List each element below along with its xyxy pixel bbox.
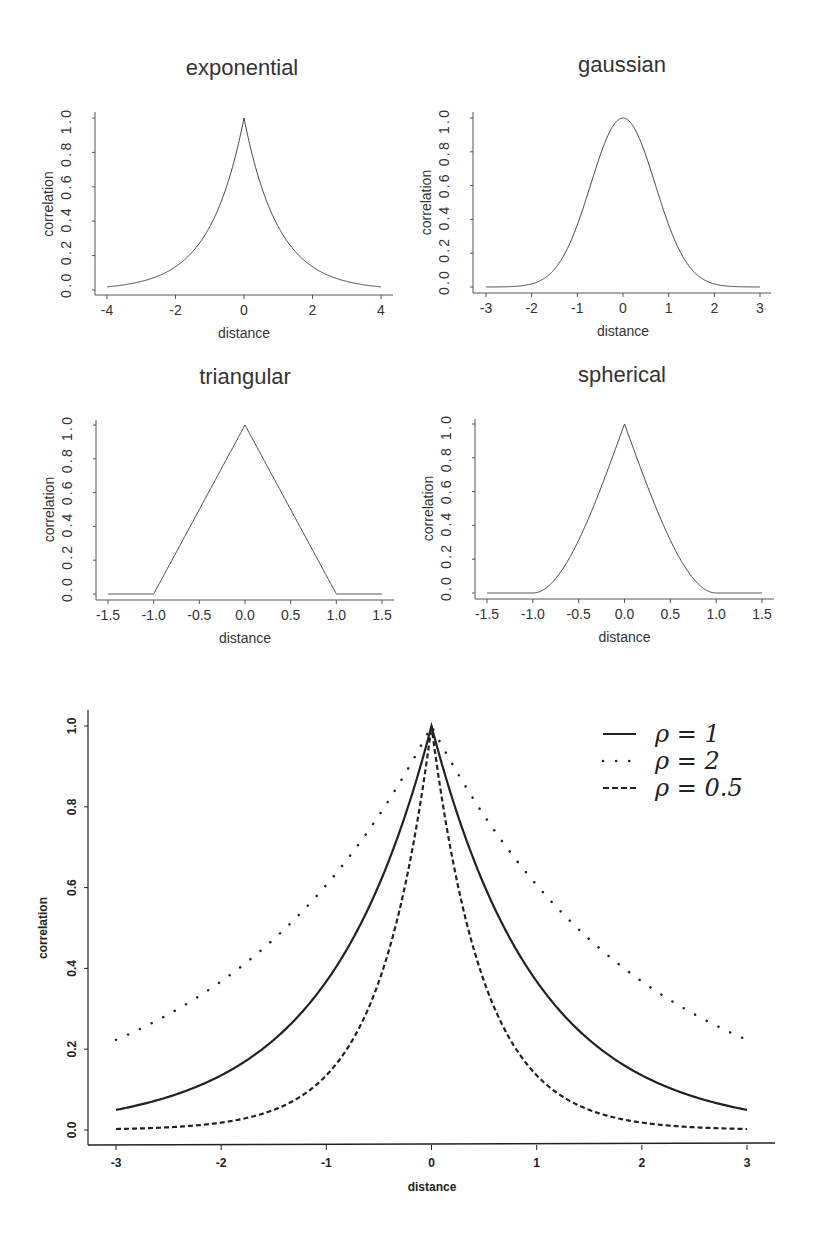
y-tick-label: 0.2	[65, 1041, 79, 1058]
y-tick-labels: 0.0 0.2 0.4 0.6 0.8 1.0	[58, 110, 74, 298]
x-tick-label: 1.0	[706, 606, 726, 622]
x-tick-label: 0	[428, 1156, 435, 1170]
y-tick-labels: 0.0 0.2 0.4 0.6 0.8 1.0	[436, 110, 452, 295]
x-tick-label: -1	[571, 300, 584, 316]
x-tick-label: 0	[619, 300, 627, 316]
x-axis-label: distance	[219, 630, 271, 646]
figure: exponential0.0 0.2 0.4 0.6 0.8 1.0correl…	[0, 0, 814, 1239]
x-tick-label: 3	[756, 300, 764, 316]
legend-label: ρ = 1	[654, 720, 720, 748]
x-tick-label: -1.5	[96, 607, 120, 623]
x-tick-label: -0.5	[187, 607, 211, 623]
panel-rho-comparison: 0.00.20.40.60.81.0correlation-3-2-10123d…	[36, 710, 775, 1194]
correlation-curve	[486, 118, 760, 287]
x-tick-label: -2	[169, 302, 182, 318]
y-axis-label: correlation	[40, 171, 56, 236]
correlation-curve	[107, 118, 381, 287]
x-tick-label: -1.0	[521, 606, 545, 622]
y-axis-label: correlation	[418, 170, 434, 235]
x-tick-label: -0.5	[567, 606, 591, 622]
legend-label: ρ = 0.5	[654, 774, 743, 802]
x-tick-label: 1	[533, 1156, 540, 1170]
series-solid	[116, 726, 747, 1110]
x-tick-label: 0	[240, 302, 248, 318]
x-tick-label: 1.0	[327, 607, 347, 623]
x-axis-label: distance	[218, 325, 270, 341]
y-axis-label: correlation	[41, 477, 57, 542]
triangular-title: triangular	[199, 364, 291, 389]
x-tick-label: -1	[321, 1156, 332, 1170]
x-tick-label: 0.0	[615, 606, 635, 622]
series-dotted	[116, 726, 747, 1040]
x-tick-label: -1.5	[475, 606, 499, 622]
x-tick-label: 4	[377, 302, 385, 318]
legend-label: ρ = 2	[654, 747, 720, 775]
x-tick-label: 0.5	[281, 607, 301, 623]
x-tick-label: 1.5	[752, 606, 772, 622]
y-tick-labels: 0.0 0.2 0.4 0.6 0.8 1.0	[438, 416, 454, 601]
correlation-curve	[487, 424, 762, 593]
y-tick-label: 0.0	[65, 1121, 79, 1138]
y-tick-label: 1.0	[65, 717, 79, 734]
x-tick-label: -2	[525, 300, 538, 316]
x-tick-label: -3	[480, 300, 493, 316]
x-axis-label: distance	[408, 1180, 457, 1194]
x-tick-label: 2	[638, 1156, 645, 1170]
series-dashed	[116, 726, 747, 1129]
y-axis-label: correlation	[36, 897, 50, 959]
x-axis	[88, 1143, 775, 1145]
panel-triangular: triangular0.0 0.2 0.4 0.6 0.8 1.0correla…	[41, 364, 394, 646]
x-tick-label: -2	[216, 1156, 227, 1170]
y-tick-label: 0.6	[65, 879, 79, 896]
x-tick-label: 1.5	[372, 607, 392, 623]
correlation-curve	[108, 425, 382, 594]
spherical-title: spherical	[578, 362, 666, 387]
x-tick-label: 2	[710, 300, 718, 316]
y-tick-label: 0.4	[65, 960, 79, 977]
x-tick-label: -3	[111, 1156, 122, 1170]
panel-spherical: spherical0.0 0.2 0.4 0.6 0.8 1.0correlat…	[420, 362, 774, 645]
x-tick-label: 3	[744, 1156, 751, 1170]
exponential-title: exponential	[186, 55, 299, 80]
x-axis-label: distance	[597, 323, 649, 339]
legend: ρ = 1ρ = 2ρ = 0.5	[603, 720, 743, 802]
y-axis-label: correlation	[420, 476, 436, 541]
x-tick-label: 2	[309, 302, 317, 318]
panel-exponential: exponential0.0 0.2 0.4 0.6 0.8 1.0correl…	[40, 55, 393, 341]
x-tick-label: 0.0	[235, 607, 255, 623]
y-tick-label: 0.8	[65, 798, 79, 815]
x-tick-label: -4	[101, 302, 114, 318]
x-tick-label: 1	[665, 300, 673, 316]
x-tick-label: 0.5	[661, 606, 681, 622]
x-tick-label: -1.0	[142, 607, 166, 623]
x-axis-label: distance	[598, 629, 650, 645]
panel-gaussian: gaussian0.0 0.2 0.4 0.6 0.8 1.0correlati…	[418, 52, 771, 339]
gaussian-title: gaussian	[578, 52, 666, 77]
y-tick-labels: 0.0 0.2 0.4 0.6 0.8 1.0	[59, 417, 75, 602]
